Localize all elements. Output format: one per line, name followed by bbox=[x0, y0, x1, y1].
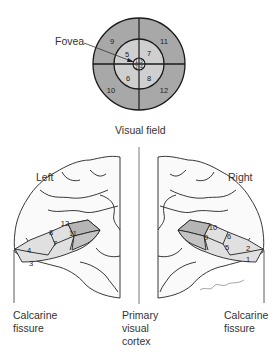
fovea-sector-4: 4 bbox=[140, 64, 143, 70]
left-region-8: 8 bbox=[49, 228, 53, 237]
left-hemisphere-label: Left bbox=[36, 171, 54, 184]
left-region-7: 7 bbox=[53, 239, 57, 248]
fovea-label: Fovea bbox=[55, 35, 84, 48]
left-region-4: 4 bbox=[27, 246, 31, 255]
sector-8: 8 bbox=[147, 74, 151, 83]
right-calcarine-caption: Calcarine fissure bbox=[224, 309, 268, 335]
fovea-sector-2: 2 bbox=[135, 64, 138, 70]
left-region-12: 12 bbox=[61, 219, 69, 228]
left-calcarine-caption: Calcarine fissure bbox=[13, 309, 57, 335]
left-region-3: 3 bbox=[29, 259, 33, 268]
right-region-9: 9 bbox=[204, 233, 208, 242]
visual-field-title: Visual field bbox=[115, 124, 166, 137]
sector-12: 12 bbox=[160, 86, 168, 95]
right-region-1: 1 bbox=[246, 255, 250, 264]
sector-9: 9 bbox=[110, 37, 114, 46]
left-region-11: 11 bbox=[69, 229, 77, 238]
sector-6: 6 bbox=[126, 74, 130, 83]
sector-11: 11 bbox=[160, 37, 168, 46]
left-hemisphere-drawing: 4 3 8 7 12 11 bbox=[14, 156, 120, 303]
sector-10: 10 bbox=[107, 86, 115, 95]
right-region-2: 2 bbox=[246, 244, 250, 253]
sector-7: 7 bbox=[147, 49, 151, 58]
primary-visual-cortex-caption: Primary visual cortex bbox=[122, 309, 158, 348]
right-hemisphere-label: Right bbox=[228, 171, 253, 184]
visual-field-diagram: 9 11 10 12 5 7 6 8 1 3 2 4 bbox=[84, 18, 185, 110]
right-region-6: 6 bbox=[227, 232, 231, 241]
right-region-10: 10 bbox=[209, 223, 217, 232]
sector-5: 5 bbox=[125, 50, 129, 59]
right-region-5: 5 bbox=[225, 243, 229, 252]
